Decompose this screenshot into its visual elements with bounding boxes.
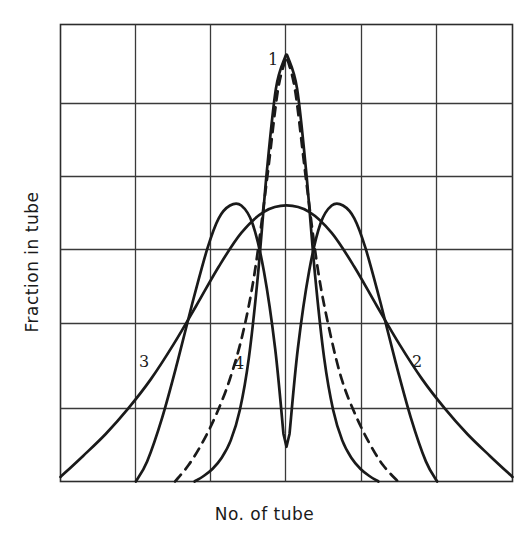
curve-label-4: 4 [234,354,244,373]
x-axis-label: No. of tube [0,504,529,524]
plot-frame [61,25,513,482]
curve-label-3: 3 [139,352,149,371]
distribution-plot [0,0,529,545]
curve-label-1: 1 [268,50,278,69]
figure-container: Fraction in tube No. of tube 1 2 3 4 [0,0,529,545]
y-axis-label: Fraction in tube [22,152,42,372]
curve-label-2: 2 [412,352,422,371]
plot-grid [61,25,513,482]
